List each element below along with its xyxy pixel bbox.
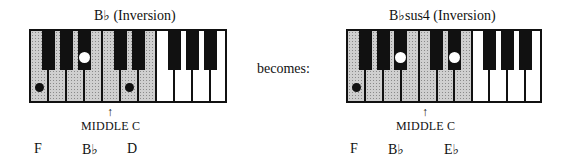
- middle-c-arrow-icon: ↑: [422, 105, 428, 120]
- note-dot-bflat: [79, 52, 90, 63]
- note-dot-d: [125, 83, 134, 92]
- key-divider: [155, 31, 157, 101]
- black-key-fsharp: [483, 31, 496, 70]
- black-key-gsharp: [501, 31, 514, 70]
- note-label: E♭: [444, 141, 459, 158]
- black-key-csharp: [430, 31, 443, 70]
- key-divider: [101, 31, 103, 101]
- black-key-gsharp: [186, 31, 199, 70]
- key-divider: [418, 31, 420, 101]
- left-keyboard: [29, 29, 227, 103]
- black-key-dsharp: [448, 31, 461, 70]
- black-key-csharp: [114, 31, 127, 70]
- black-key-asharp: [78, 31, 91, 70]
- note-dot-f: [35, 83, 44, 92]
- key-divider: [471, 31, 473, 101]
- middle-c-arrow-icon: ↑: [107, 105, 113, 120]
- note-dot-bflat: [395, 52, 406, 63]
- black-key-gsharp: [60, 31, 73, 70]
- note-label: F: [34, 141, 42, 157]
- left-chord-title: B♭ (Inversion): [94, 7, 176, 24]
- note-label: F: [350, 141, 358, 157]
- black-key-asharp: [519, 31, 532, 70]
- right-keyboard: [346, 29, 542, 103]
- note-label: B♭: [82, 141, 98, 158]
- black-key-gsharp: [377, 31, 390, 70]
- black-key-fsharp: [168, 31, 181, 70]
- black-key-dsharp: [132, 31, 145, 70]
- black-key-fsharp: [42, 31, 55, 70]
- black-key-asharp: [394, 31, 407, 70]
- right-chord-title: B♭sus4 (Inversion): [389, 7, 496, 24]
- note-dot-eflat: [449, 52, 460, 63]
- middle-c-label: MIDDLE C: [396, 119, 455, 134]
- black-key-fsharp: [359, 31, 372, 70]
- black-key-asharp: [204, 31, 217, 70]
- note-label: B♭: [388, 141, 404, 158]
- note-label: D: [127, 141, 137, 157]
- becomes-label: becomes:: [257, 61, 310, 77]
- middle-c-label: MIDDLE C: [81, 119, 140, 134]
- note-dot-f: [352, 83, 361, 92]
